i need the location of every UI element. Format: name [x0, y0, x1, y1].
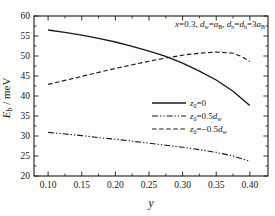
legend-label-2: z0=−0.5dw [189, 124, 227, 135]
x-tick-label: 0.30 [174, 180, 191, 190]
x-axis-label: y [147, 197, 154, 210]
y-tick-label: 35 [21, 111, 31, 121]
x-tick-label: 0.15 [73, 180, 90, 190]
axis-ticks [34, 16, 268, 176]
x-tick-label: 0.20 [107, 180, 124, 190]
x-tick-labels: 0.100.150.200.250.300.350.40 [40, 180, 259, 190]
y-axis-label: Eb / meV [0, 78, 14, 120]
plot-frame [34, 16, 268, 176]
x-tick-label: 0.40 [242, 180, 259, 190]
binding-energy-chart: 0.100.150.200.250.300.350.40202530354045… [0, 0, 275, 216]
y-tick-labels: 202530354045505560 [21, 11, 31, 181]
series-line-2 [48, 52, 250, 84]
parameters-annotation: x=0.3, dw=aB, db=db=3aB [174, 19, 265, 30]
series-line-1 [48, 132, 250, 161]
x-tick-label: 0.10 [40, 180, 57, 190]
series-line-0 [48, 30, 250, 106]
x-tick-label: 0.25 [141, 180, 158, 190]
x-tick-label: 0.35 [208, 180, 225, 190]
y-tick-label: 55 [21, 31, 31, 41]
y-tick-label: 50 [21, 51, 31, 61]
y-tick-label: 45 [21, 71, 31, 81]
binding-energy-figure: 0.100.150.200.250.300.350.40202530354045… [0, 0, 275, 216]
legend-label-1: z0=0.5dw [189, 111, 222, 122]
legend: z0=0z0=0.5dwz0=−0.5dw [152, 98, 227, 135]
y-tick-label: 30 [21, 131, 31, 141]
legend-label-0: z0=0 [189, 98, 207, 109]
y-tick-label: 25 [21, 151, 31, 161]
y-tick-label: 20 [21, 171, 31, 181]
y-tick-label: 40 [21, 91, 31, 101]
y-tick-label: 60 [21, 11, 31, 21]
